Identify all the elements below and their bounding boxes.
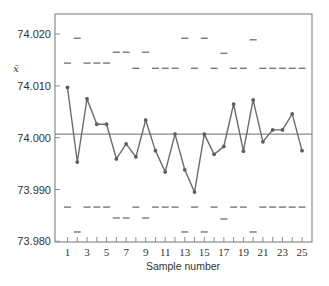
plot-frame bbox=[55, 14, 312, 242]
x-tick-label: 15 bbox=[199, 246, 211, 258]
data-point-marker bbox=[300, 149, 304, 153]
data-point-marker bbox=[241, 149, 245, 153]
x-tick-label: 17 bbox=[218, 246, 230, 258]
y-axis: 74.02074.01074.00073.99073.980 bbox=[17, 28, 60, 247]
data-point-marker bbox=[173, 132, 177, 136]
series-line bbox=[68, 88, 303, 193]
data-point-marker bbox=[222, 145, 226, 149]
data-point-marker bbox=[105, 122, 109, 126]
data-point-marker bbox=[290, 112, 294, 116]
x-tick-label: 3 bbox=[84, 246, 90, 258]
plot-border bbox=[55, 14, 312, 242]
y-tick-label: 74.010 bbox=[17, 80, 51, 92]
data-point-marker bbox=[232, 102, 236, 106]
data-series bbox=[66, 86, 304, 194]
data-point-marker bbox=[85, 97, 89, 101]
y-tick-label: 73.990 bbox=[17, 184, 51, 196]
x-tick-label: 19 bbox=[238, 246, 250, 258]
y-tick-label: 74.020 bbox=[17, 28, 51, 40]
x-axis: 135791113151719212325 bbox=[65, 237, 308, 258]
data-point-marker bbox=[183, 168, 187, 172]
data-point-marker bbox=[251, 98, 255, 102]
data-point-marker bbox=[66, 86, 70, 90]
data-point-marker bbox=[124, 142, 128, 146]
x-tick-label: 23 bbox=[277, 246, 289, 258]
x-tick-label: 25 bbox=[297, 246, 309, 258]
data-point-marker bbox=[154, 149, 158, 153]
data-point-marker bbox=[261, 140, 265, 144]
x-tick-label: 7 bbox=[123, 246, 129, 258]
data-point-marker bbox=[114, 157, 118, 161]
data-point-marker bbox=[193, 190, 197, 194]
y-axis-label: x̄ bbox=[13, 63, 19, 74]
data-point-marker bbox=[212, 152, 216, 156]
x-tick-label: 1 bbox=[65, 246, 71, 258]
data-point-marker bbox=[75, 160, 79, 164]
y-tick-label: 73.980 bbox=[17, 235, 51, 247]
x-tick-label: 5 bbox=[104, 246, 110, 258]
x-axis-label: Sample number bbox=[146, 260, 221, 272]
control-chart: 74.02074.01074.00073.99073.980 135791113… bbox=[0, 0, 329, 286]
data-point-marker bbox=[271, 128, 275, 132]
x-tick-label: 21 bbox=[257, 246, 268, 258]
data-point-marker bbox=[163, 170, 167, 174]
x-tick-label: 11 bbox=[160, 246, 171, 258]
data-point-marker bbox=[281, 128, 285, 132]
data-point-marker bbox=[202, 132, 206, 136]
data-point-marker bbox=[95, 122, 99, 126]
x-tick-label: 13 bbox=[179, 246, 191, 258]
y-tick-label: 74.000 bbox=[17, 132, 51, 144]
data-point-marker bbox=[144, 118, 148, 122]
data-point-marker bbox=[134, 155, 138, 159]
x-tick-label: 9 bbox=[143, 246, 149, 258]
